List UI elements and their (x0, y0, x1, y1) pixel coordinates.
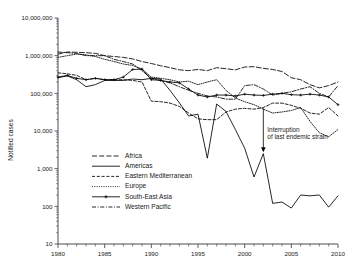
annotation-interruption: Interruptionof last endemic strain (261, 108, 328, 152)
x-tick-label: 2000 (238, 250, 252, 257)
chart-container: 101001,00010,000100,0001,000,00010,000,0… (0, 0, 349, 271)
y-axis: 101001,00010,000100,0001,000,00010,000,0… (22, 14, 58, 247)
series-marker (290, 93, 293, 96)
x-tick-label: 1995 (191, 250, 205, 257)
x-axis: 1980198519901995200020052010 (51, 244, 345, 257)
y-tick-label: 100,000 (30, 90, 53, 97)
measles-notified-cases-chart: 101001,00010,000100,0001,000,00010,000,0… (0, 0, 349, 271)
series-marker (299, 94, 302, 97)
y-tick-label: 10,000,000 (22, 14, 54, 21)
y-tick-label: 100 (42, 203, 53, 210)
x-tick-label: 2010 (331, 250, 345, 257)
legend-label: Western Pacific (125, 203, 171, 210)
series-marker (57, 76, 60, 79)
y-axis-title: Notified cases (7, 119, 14, 161)
annotation-line-2: of last endemic strain (267, 133, 328, 140)
series-marker (215, 94, 218, 97)
legend-label: Africa (125, 152, 142, 159)
x-tick-label: 1980 (51, 250, 65, 257)
legend-label: Europe (125, 182, 147, 190)
series-line-western-pacific (58, 52, 338, 99)
annotation-arrow-head (261, 147, 266, 152)
series-marker (234, 95, 237, 98)
series-marker (243, 93, 246, 96)
series-marker (253, 94, 256, 97)
legend: AfricaAmericasEastern MediterraneanEurop… (92, 152, 192, 210)
x-tick-label: 1990 (144, 250, 158, 257)
legend-marker (104, 195, 107, 198)
legend-label: Eastern Mediterranean (125, 172, 192, 179)
y-tick-label: 1,000,000 (25, 52, 53, 59)
y-tick-label: 10 (46, 240, 53, 247)
series-marker (85, 78, 88, 81)
legend-label: Americas (125, 162, 153, 169)
legend-label: South-East Asia (125, 193, 172, 200)
series-marker (94, 77, 97, 80)
x-tick-label: 2005 (284, 250, 298, 257)
series-marker (225, 94, 228, 97)
y-tick-label: 1,000 (37, 165, 53, 172)
series-line-south-east-asia (58, 69, 338, 105)
series-marker (262, 94, 265, 97)
x-tick-label: 1985 (98, 250, 112, 257)
y-tick-label: 10,000 (34, 127, 53, 134)
series-marker (309, 93, 312, 96)
